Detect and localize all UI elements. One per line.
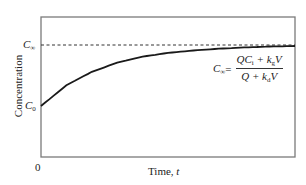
formula-lhs: C∞ [213,62,225,76]
chart-canvas [0,0,306,185]
origin-tick-label: 0 [35,162,41,173]
formula-denominator: Q + kdV [241,69,277,84]
c0-tick-label: C0 [25,100,36,113]
formula-numerator: QCi + kgV [236,53,283,69]
y-axis-label: Concentration [12,46,24,126]
formula-equals: = [225,63,231,75]
formula-fraction: QCi + kgV Q + kdV [236,53,283,84]
plot-frame [41,17,295,157]
steady-state-formula: C∞ = QCi + kgV Q + kdV [213,53,283,84]
c-infinity-tick-label: C∞ [23,39,35,52]
x-axis-label: Time, t [148,166,179,177]
